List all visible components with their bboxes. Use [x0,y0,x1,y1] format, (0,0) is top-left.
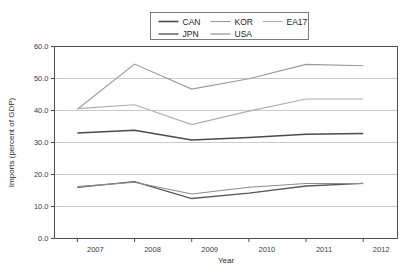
x-tick-label-2010: 2010 [259,245,276,254]
chart-canvas: 0.010.020.030.040.050.060.0 200720082009… [0,0,414,277]
y-tick-label-60: 60.0 [34,42,49,51]
x-axis-title: Year [218,256,235,265]
legend-border [151,13,309,40]
x-tick-label-2007: 2007 [87,245,104,254]
gridlines-group [55,47,398,207]
series-line-kor [77,64,363,109]
legend-label-jpn: JPN [183,29,199,39]
legend-label-can: CAN [183,17,201,27]
x-tick-label-2008: 2008 [144,245,161,254]
series-line-can [77,130,363,140]
series-line-ea17 [77,99,363,125]
series-line-jpn [77,182,363,199]
y-tick-labels-group: 0.010.020.030.040.050.060.0 [34,42,49,243]
y-tick-label-50: 50.0 [34,74,49,83]
x-tick-label-2009: 2009 [201,245,218,254]
x-tick-label-2012: 2012 [373,245,390,254]
x-tick-label-2011: 2011 [316,245,332,254]
y-axis-title: Imports (percent of GDP) [7,97,16,187]
imports-percent-of-gdp-line-chart: 0.010.020.030.040.050.060.0 200720082009… [0,0,414,277]
y-tick-label-20: 20.0 [34,170,49,179]
series-line-usa [77,182,363,194]
legend-label-ea17: EA17 [287,17,308,27]
x-tick-labels-group: 200720082009201020112012 [87,245,390,254]
y-tick-label-0: 0.0 [38,234,48,243]
legend-label-kor: KOR [235,17,253,27]
tick-marks-group [51,47,363,243]
y-tick-label-10: 10.0 [34,202,49,211]
y-tick-label-40: 40.0 [34,106,49,115]
y-tick-label-30: 30.0 [34,138,49,147]
legend-label-usa: USA [235,29,253,39]
data-series-group [77,64,363,198]
chart-legend: CANKOREA17JPNUSA [151,13,309,40]
